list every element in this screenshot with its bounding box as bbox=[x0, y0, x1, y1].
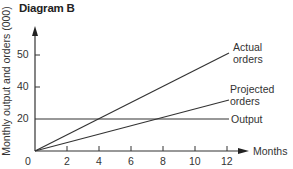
projected-orders-label: Projected orders bbox=[230, 83, 274, 107]
actual-orders-label: Actual orders bbox=[233, 41, 263, 65]
x-axis-label: Months bbox=[253, 145, 287, 157]
chart-title: Diagram B bbox=[19, 2, 75, 14]
x-tick-label-10: 10 bbox=[189, 155, 201, 167]
origin-label: 0 bbox=[25, 155, 31, 167]
projected-orders-line bbox=[35, 100, 229, 151]
y-axis-label: Monthly output and orders (000) bbox=[0, 1, 12, 161]
x-tick-label-12: 12 bbox=[221, 155, 233, 167]
actual-orders-label-line2: orders bbox=[233, 53, 263, 65]
actual-orders-label-line1: Actual bbox=[233, 41, 263, 53]
x-tick-label-4: 4 bbox=[96, 155, 102, 167]
projected-orders-label-line2: orders bbox=[230, 95, 274, 107]
x-tick-label-2: 2 bbox=[64, 155, 70, 167]
y-axis-arrow-icon bbox=[32, 26, 38, 36]
output-label: Output bbox=[231, 113, 263, 125]
actual-orders-line bbox=[35, 53, 229, 151]
x-tick-label-8: 8 bbox=[160, 155, 166, 167]
x-axis-arrow-icon bbox=[238, 148, 249, 154]
x-tick-label-6: 6 bbox=[128, 155, 134, 167]
y-tick-label-50: 50 bbox=[17, 48, 29, 60]
y-tick-label-20: 20 bbox=[17, 112, 29, 124]
y-tick-label-40: 40 bbox=[17, 80, 29, 92]
projected-orders-label-line1: Projected bbox=[230, 83, 274, 95]
chart: Diagram B Monthly output and orders (000… bbox=[0, 0, 293, 169]
